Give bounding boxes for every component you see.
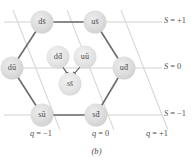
node-ds[interactable]: ds̄ (31, 11, 54, 34)
node-ds-label: ds̄ (38, 17, 46, 26)
charge-value-zero: = 0 (98, 129, 109, 138)
node-us[interactable]: us̄ (84, 11, 107, 34)
strangeness-value-zero: = 0 (170, 62, 181, 71)
node-sd[interactable]: sd̄ (85, 104, 108, 127)
node-su-label: sū (38, 110, 45, 119)
node-dd[interactable]: dd̄ (47, 46, 70, 69)
charge-symbol-zero: q (92, 129, 96, 138)
charge-value-minus-1: = −1 (36, 129, 52, 138)
node-su[interactable]: sū (31, 104, 54, 127)
strangeness-value-plus-1: = +1 (170, 16, 186, 25)
node-ss[interactable]: ss̄ (59, 73, 82, 96)
node-ss-label: ss̄ (67, 79, 74, 88)
node-uu[interactable]: uū (74, 46, 97, 69)
node-ud[interactable]: ud̄ (113, 57, 136, 80)
node-ud-label: ud̄ (120, 63, 128, 72)
strangeness-label-plus-1: S = +1 (164, 16, 186, 25)
charge-label-minus-1: q = −1 (30, 129, 52, 138)
node-us-label: us̄ (91, 17, 99, 26)
strangeness-value-minus-1: = −1 (170, 109, 186, 118)
strangeness-label-minus-1: S = −1 (164, 109, 186, 118)
figure-caption: (b) (0, 146, 193, 156)
node-dd-label: dd̄ (54, 52, 62, 61)
node-uu-label: uū (81, 52, 89, 61)
charge-label-plus-1: q = +1 (146, 129, 168, 138)
node-du-label: dū (8, 63, 16, 72)
charge-label-zero: q = 0 (92, 129, 109, 138)
meson-nonet-figure: ds̄ us̄ ud̄ sd̄ sū dū (0, 0, 193, 163)
strangeness-symbol-zero: S (164, 62, 168, 71)
charge-value-plus-1: = +1 (152, 129, 168, 138)
charge-symbol-minus-1: q (30, 129, 34, 138)
node-du[interactable]: dū (1, 57, 24, 80)
strangeness-symbol-plus-1: S (164, 16, 168, 25)
strangeness-axis-lines (4, 22, 162, 115)
charge-symbol-plus-1: q (146, 129, 150, 138)
node-sd-label: sd̄ (92, 110, 100, 119)
strangeness-symbol-minus-1: S (164, 109, 168, 118)
strangeness-label-zero: S = 0 (164, 62, 181, 71)
